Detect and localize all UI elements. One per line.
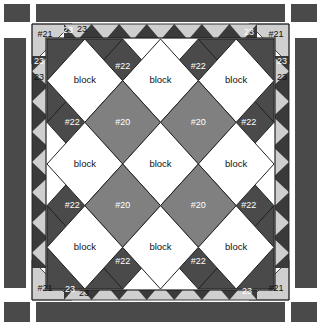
setting-triangle-label-left-1: #22: [65, 117, 80, 127]
corner-square-top-right: [291, 4, 317, 22]
setting-triangle-label-top-1: #22: [115, 61, 130, 71]
sawtooth-label-right-b: 23: [277, 72, 287, 82]
block-label: block: [74, 158, 96, 169]
corner-triangle-label-top-left: #21: [65, 61, 80, 71]
setting-triangle-label-bottom-2: #22: [191, 256, 206, 266]
setting-triangle-label-top-2: #22: [191, 61, 206, 71]
corner-triangle-label-bottom-right: #21: [241, 256, 256, 266]
block-label: block: [74, 74, 96, 85]
border-corner-label-bottom-right: #21: [268, 283, 283, 293]
block-label: block: [225, 241, 247, 252]
sawtooth-label-left-b: 23: [34, 72, 44, 82]
alternate-block-label: #20: [191, 200, 206, 210]
sawtooth-label-bottom-right-a: 23: [242, 286, 252, 296]
outer-border-left: [4, 38, 26, 288]
corner-square-bottom-right: [291, 302, 317, 322]
border-corner-label-top-right: #21: [268, 29, 283, 39]
block-label: block: [225, 74, 247, 85]
block-label: block: [149, 241, 171, 252]
block-label: block: [149, 158, 171, 169]
quilt-diagram: blockblockblock#20#20blockblockblock#20#…: [0, 0, 321, 332]
setting-triangle-label-left-2: #22: [65, 200, 80, 210]
border-corner-label-top-left: #21: [37, 29, 52, 39]
outer-border-top: [36, 4, 285, 22]
corner-triangle-label-bottom-left: #21: [65, 256, 80, 266]
sawtooth-label-top-left-a: 23: [63, 25, 73, 35]
block-label: block: [74, 241, 96, 252]
quilt-diagram-svg: blockblockblock#20#20blockblockblock#20#…: [0, 0, 321, 332]
corner-square-top-left: [4, 4, 30, 22]
sawtooth-label-right-a: 23: [277, 56, 287, 66]
alternate-block-label: #20: [115, 117, 130, 127]
sawtooth-label-top-left-b: 23: [77, 24, 87, 34]
setting-triangle-label-right-1: #22: [241, 117, 256, 127]
sawtooth-label-bottom-left-a: 23: [65, 284, 75, 294]
outer-border-bottom: [36, 302, 285, 322]
corner-triangle-label-top-right: #21: [241, 61, 256, 71]
corner-square-bottom-left: [4, 302, 30, 322]
sawtooth-label-left-a: 23: [34, 56, 44, 66]
alternate-block-label: #20: [191, 117, 206, 127]
outer-border-right: [295, 38, 317, 288]
setting-triangle-label-bottom-1: #22: [115, 256, 130, 266]
border-corner-label-bottom-left: #21: [37, 283, 52, 293]
setting-triangle-label-right-2: #22: [241, 200, 256, 210]
alternate-block-label: #20: [115, 200, 130, 210]
block-label: block: [225, 158, 247, 169]
sawtooth-label-top-right-a: 23: [244, 27, 254, 37]
block-label: block: [149, 74, 171, 85]
sawtooth-label-bottom-left-b: 23: [79, 288, 89, 298]
